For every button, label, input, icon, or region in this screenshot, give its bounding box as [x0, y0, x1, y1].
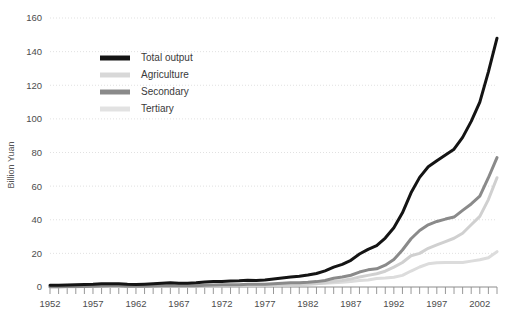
y-tick-label: 120 [26, 80, 42, 91]
y-tick-label: 40 [31, 214, 42, 225]
x-tick-label: 1957 [82, 298, 103, 309]
legend-label: Agriculture [141, 69, 189, 80]
y-tick-label: 60 [31, 181, 42, 192]
y-tick-label: 0 [37, 281, 42, 292]
line-chart: 020406080100120140160 195219571962196719… [0, 0, 516, 326]
x-tick-label: 1952 [39, 298, 60, 309]
x-tick-label: 1987 [340, 298, 361, 309]
y-axis-title: Billion Yuan [6, 142, 16, 189]
legend-label: Total output [141, 52, 193, 63]
chart-background [0, 0, 516, 326]
x-tick-label: 1997 [426, 298, 447, 309]
x-tick-label: 1982 [297, 298, 318, 309]
chart-container: 020406080100120140160 195219571962196719… [0, 0, 516, 326]
x-tick-label: 1962 [125, 298, 146, 309]
y-tick-label: 80 [31, 147, 42, 158]
y-tick-label: 20 [31, 248, 42, 259]
x-tick-label: 1967 [168, 298, 189, 309]
y-tick-label: 100 [26, 113, 42, 124]
y-tick-label: 160 [26, 12, 42, 23]
x-tick-label: 1972 [211, 298, 232, 309]
x-tick-label: 2002 [469, 298, 490, 309]
legend-label: Secondary [141, 86, 189, 97]
x-tick-label: 1977 [254, 298, 275, 309]
x-tick-label: 1992 [383, 298, 404, 309]
legend-label: Tertiary [141, 103, 174, 114]
y-tick-label: 140 [26, 46, 42, 57]
